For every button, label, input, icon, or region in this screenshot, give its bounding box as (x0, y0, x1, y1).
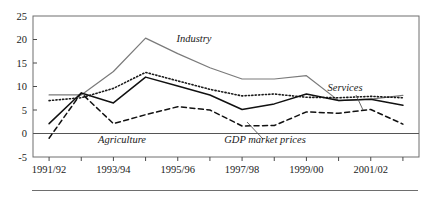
y-axis-tick-label: -5 (18, 152, 27, 163)
y-axis-tick-label: 10 (17, 81, 28, 92)
y-axis-tick-label: 20 (17, 34, 28, 45)
x-axis-tick-label: 1995/96 (161, 164, 195, 175)
caption-divider (32, 190, 418, 191)
x-axis-tick-label: 1997/98 (225, 164, 259, 175)
series-annotation-agriculture: Agriculture (97, 134, 146, 145)
x-axis-tick-label: 1993/94 (96, 164, 131, 175)
x-axis-tick-label: 1999/00 (289, 164, 323, 175)
series-annotation-industry: Industry (176, 33, 212, 44)
figure-caption (52, 196, 412, 206)
x-axis-tick-label: 1991/92 (32, 164, 66, 175)
line-chart: -505101520251991/921993/941995/961997/98… (0, 0, 436, 190)
y-axis-tick-label: 25 (17, 11, 28, 22)
x-axis-tick-label: 2001/02 (354, 164, 388, 175)
y-axis-tick-label: 15 (17, 58, 28, 69)
y-axis-tick-label: 0 (22, 128, 27, 139)
figure-container: -505101520251991/921993/941995/961997/98… (0, 0, 436, 207)
series-annotation-gdp-market-prices: GDP market prices (224, 134, 305, 145)
y-axis-tick-label: 5 (22, 105, 27, 116)
series-annotation-services: Services (328, 82, 363, 93)
